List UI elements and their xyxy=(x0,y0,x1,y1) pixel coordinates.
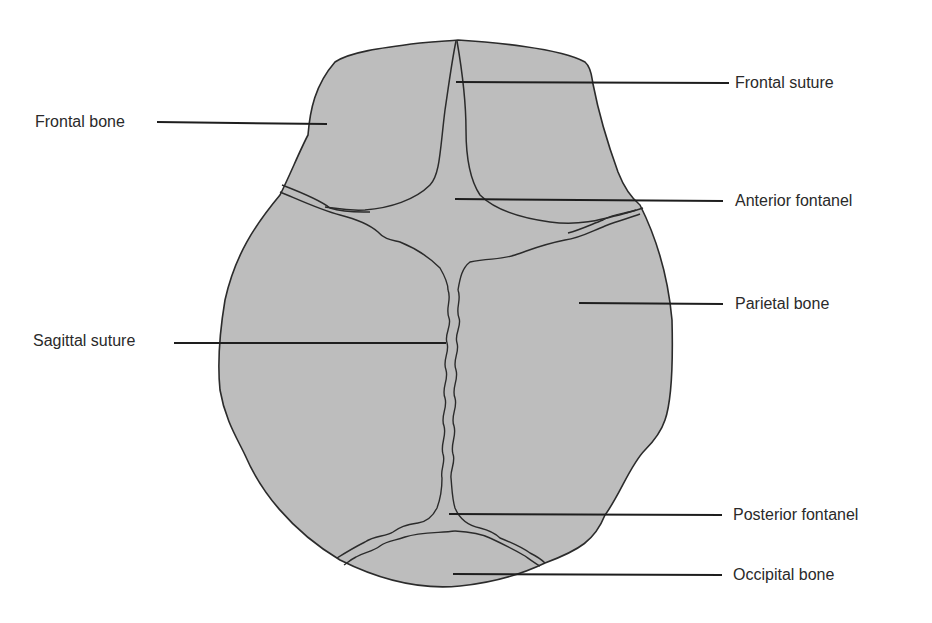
label-posterior-fontanel: Posterior fontanel xyxy=(733,506,858,524)
skull-outline xyxy=(219,40,673,587)
leader-line-frontal-suture xyxy=(456,82,729,83)
label-sagittal-suture: Sagittal suture xyxy=(33,332,135,350)
label-frontal-suture: Frontal suture xyxy=(735,74,834,92)
label-parietal-bone: Parietal bone xyxy=(735,295,829,313)
leader-line-posterior-fontanel xyxy=(449,514,722,515)
label-frontal-bone: Frontal bone xyxy=(35,113,125,131)
leader-line-parietal-bone xyxy=(579,303,723,304)
leader-line-occipital-bone xyxy=(453,574,722,575)
leader-line-frontal-bone xyxy=(157,122,327,124)
label-occipital-bone: Occipital bone xyxy=(733,566,834,584)
label-anterior-fontanel: Anterior fontanel xyxy=(735,192,852,210)
